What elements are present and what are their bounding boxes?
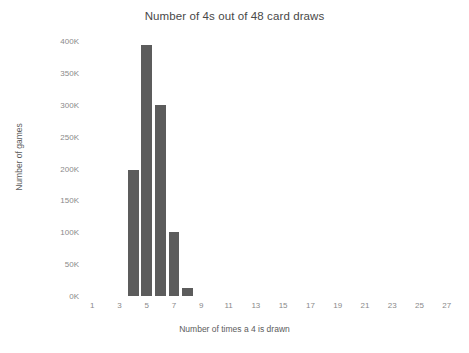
x-tick-label: 23 (388, 301, 397, 310)
bar (169, 232, 180, 296)
bar (182, 288, 193, 296)
y-tick-label: 250K (60, 132, 79, 141)
x-tick-label: 9 (199, 301, 203, 310)
y-tick-label: 400K (60, 37, 79, 46)
x-tick-label: 19 (333, 301, 342, 310)
y-axis-title: Number of games (14, 107, 24, 207)
y-tick-label: 350K (60, 68, 79, 77)
x-tick-label: 27 (442, 301, 451, 310)
x-tick-label: 3 (117, 301, 121, 310)
chart-title: Number of 4s out of 48 card draws (0, 10, 469, 22)
y-tick-label: 200K (60, 164, 79, 173)
y-tick-label: 0K (69, 292, 79, 301)
x-tick-label: 13 (251, 301, 260, 310)
x-axis-title: Number of times a 4 is drawn (0, 324, 469, 334)
bar (141, 45, 152, 296)
x-tick-label: 7 (172, 301, 176, 310)
x-tick-label: 5 (145, 301, 149, 310)
bar (155, 105, 166, 296)
y-tick-label: 100K (60, 228, 79, 237)
y-tick-label: 150K (60, 196, 79, 205)
y-tick-label: 50K (65, 260, 79, 269)
x-tick-label: 1 (90, 301, 94, 310)
x-tick-label: 17 (306, 301, 315, 310)
plot-area: 0K50K100K150K200K250K300K350K400K 135791… (84, 41, 455, 296)
y-tick-label: 300K (60, 100, 79, 109)
bar (128, 170, 139, 296)
bar-chart: Number of 4s out of 48 card draws Number… (0, 0, 469, 353)
x-tick-label: 15 (279, 301, 288, 310)
x-tick-label: 21 (361, 301, 370, 310)
x-tick-label: 11 (224, 301, 232, 310)
x-tick-label: 25 (415, 301, 424, 310)
